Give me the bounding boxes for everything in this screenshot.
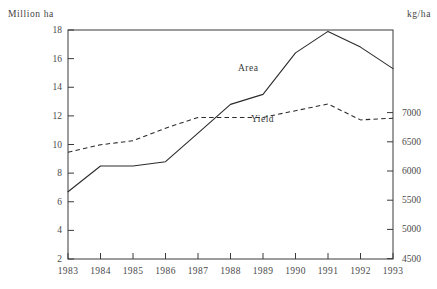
- y-tick-left-10: 10: [36, 140, 62, 150]
- y-tick-left-18: 18: [36, 25, 62, 35]
- chart-container: Million ha kg/ha: [0, 0, 437, 289]
- y-tick-left-2: 2: [36, 254, 62, 264]
- y-tick-right-5500: 5500: [402, 195, 421, 205]
- series-label-area: Area: [238, 63, 258, 73]
- y-tick-left-8: 8: [36, 168, 62, 178]
- y-tick-left-6: 6: [36, 197, 62, 207]
- y-tick-right-6500: 6500: [402, 137, 421, 147]
- y-tick-right-5000: 5000: [402, 224, 421, 234]
- y-tick-left-16: 16: [36, 54, 62, 64]
- series-line-area: [68, 31, 393, 191]
- series-label-yield: Yield: [251, 114, 274, 124]
- plot-frame: [68, 30, 393, 259]
- y-tick-left-12: 12: [36, 111, 62, 121]
- left-axis-ticks: [68, 30, 74, 259]
- plot-area: [0, 0, 437, 289]
- x-axis-ticks: [68, 253, 393, 259]
- right-axis-ticks: [387, 113, 393, 259]
- series-line-yield: [68, 104, 393, 152]
- x-tick-1993: 1993: [373, 266, 413, 276]
- y-tick-left-4: 4: [36, 225, 62, 235]
- y-tick-right-4500: 4500: [402, 254, 421, 264]
- y-tick-right-6000: 6000: [402, 166, 421, 176]
- y-tick-right-7000: 7000: [402, 108, 421, 118]
- y-tick-left-14: 14: [36, 82, 62, 92]
